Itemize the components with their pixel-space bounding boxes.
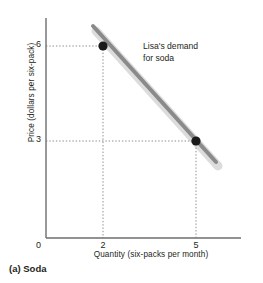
x-tick-label-2: 2 bbox=[95, 240, 111, 250]
figure-soda-demand: Price (dollars per six-pack) Quantity (s… bbox=[0, 0, 263, 283]
annotation-line-2: for soda bbox=[143, 52, 198, 64]
y-tick-label-6: 6 bbox=[27, 39, 41, 49]
annotation-line-1: Lisa's demand bbox=[143, 40, 198, 52]
x-axis-label: Quantity (six-packs per month) bbox=[46, 250, 256, 259]
data-point-marker-2-6 bbox=[98, 41, 107, 50]
y-tick-label-3: 3 bbox=[27, 134, 41, 144]
figure-caption: (a) Soda bbox=[9, 263, 46, 274]
data-point-marker-5-3 bbox=[191, 136, 200, 145]
axis-origin-label: 0 bbox=[27, 240, 41, 250]
demand-curve-annotation: Lisa's demand for soda bbox=[143, 40, 198, 64]
x-tick-label-5: 5 bbox=[188, 240, 204, 250]
